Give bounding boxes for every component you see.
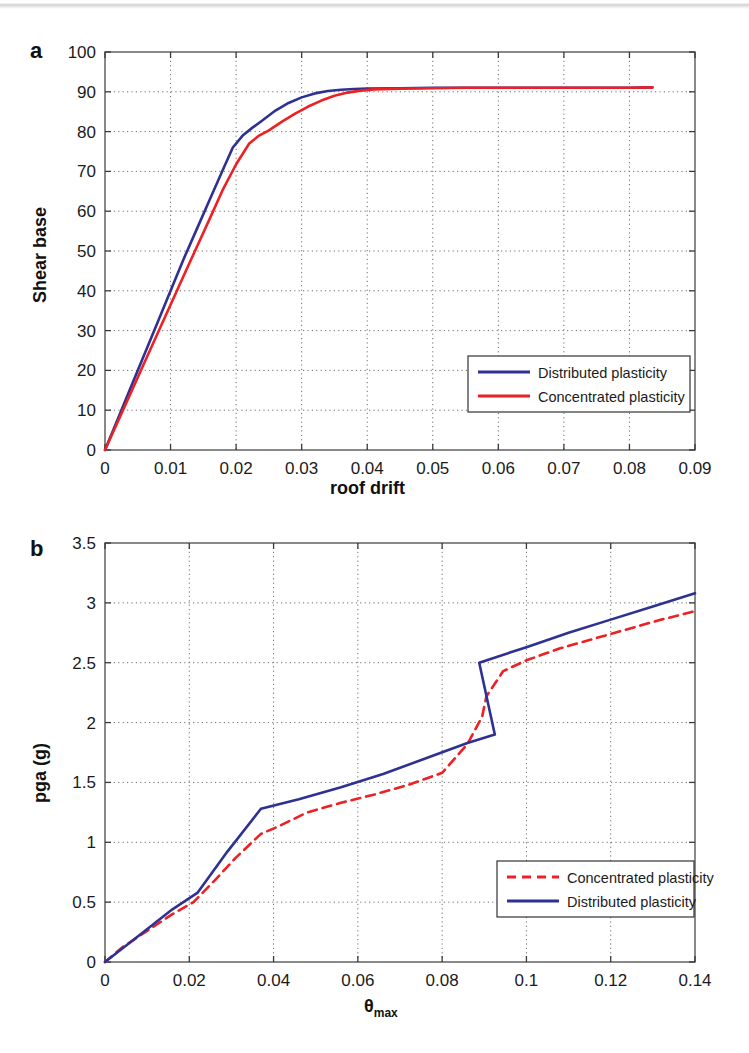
x-tick-label: 0.06: [341, 971, 374, 990]
y-tick-label: 90: [77, 83, 96, 102]
x-tick-label: 0.04: [257, 971, 290, 990]
x-tick-label: 0.03: [285, 459, 318, 478]
panel-b-x-axis-title: θmax: [364, 996, 398, 1020]
x-tick-label: 0.06: [482, 459, 515, 478]
legend: Distributed plasticityConcentrated plast…: [468, 356, 690, 412]
panel-b-y-axis-title: pga (g): [30, 743, 51, 803]
legend-label-0: Concentrated plasticity: [567, 870, 714, 886]
theta-symbol: θ: [364, 996, 374, 1016]
y-tick-label: 1.5: [72, 773, 96, 792]
y-tick-label: 80: [77, 123, 96, 142]
chart-panel-b: b 00.511.522.533.500.020.040.060.080.10.…: [0, 528, 749, 1053]
legend: Concentrated plasticityDistributed plast…: [497, 861, 714, 917]
y-tick-label: 20: [77, 361, 96, 380]
theta-subscript: max: [374, 1006, 398, 1020]
x-tick-label: 0.02: [220, 459, 253, 478]
legend-label-1: Distributed plasticity: [567, 894, 697, 910]
x-tick-label: 0.12: [594, 971, 627, 990]
y-tick-label: 40: [77, 282, 96, 301]
y-tick-label: 0.5: [72, 893, 96, 912]
scan-artifact-strip: [0, 0, 749, 9]
y-tick-label: 3.5: [72, 534, 96, 553]
y-tick-label: 10: [77, 401, 96, 420]
panel-a-plot: 010203040506070809010000.010.020.030.040…: [0, 18, 749, 528]
y-tick-label: 70: [77, 162, 96, 181]
y-tick-label: 1: [87, 833, 96, 852]
y-tick-label: 3: [87, 594, 96, 613]
x-tick-label: 0.14: [678, 971, 711, 990]
x-tick-label: 0.04: [351, 459, 384, 478]
x-tick-label: 0.08: [613, 459, 646, 478]
panel-b-plot: 00.511.522.533.500.020.040.060.080.10.12…: [0, 528, 749, 1053]
y-tick-label: 30: [77, 322, 96, 341]
x-tick-label: 0.02: [173, 971, 206, 990]
x-tick-label: 0.09: [678, 459, 711, 478]
x-tick-label: 0.07: [547, 459, 580, 478]
chart-panel-a: a 010203040506070809010000.010.020.030.0…: [0, 18, 749, 528]
y-tick-label: 60: [77, 202, 96, 221]
y-tick-label: 2.5: [72, 654, 96, 673]
legend-label-1: Concentrated plasticity: [538, 389, 685, 405]
x-tick-label: 0: [100, 459, 109, 478]
y-tick-label: 0: [87, 953, 96, 972]
panel-a-x-axis-title: roof drift: [330, 478, 405, 499]
x-tick-label: 0.01: [154, 459, 187, 478]
panel-a-y-axis-title: Shear base: [30, 207, 51, 303]
x-tick-label: 0.1: [515, 971, 539, 990]
x-tick-label: 0.08: [426, 971, 459, 990]
x-tick-label: 0.05: [416, 459, 449, 478]
legend-label-0: Distributed plasticity: [538, 365, 668, 381]
x-tick-label: 0: [100, 971, 109, 990]
y-tick-label: 50: [77, 242, 96, 261]
y-tick-label: 0: [87, 441, 96, 460]
y-tick-label: 2: [87, 714, 96, 733]
y-tick-label: 100: [68, 43, 96, 62]
